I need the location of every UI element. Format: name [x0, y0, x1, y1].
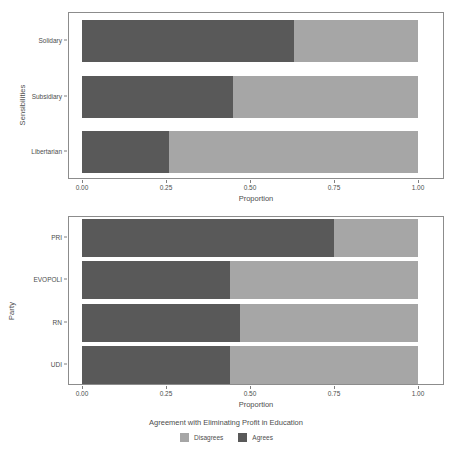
x-tick-label: 0.25: [160, 390, 173, 397]
y-tick-mark: [64, 237, 67, 238]
x-axis-title-top: Proportion: [68, 194, 444, 203]
legend: Agreement with Eliminating Profit in Edu…: [0, 414, 452, 456]
y-tick-label: Subsidiary: [32, 92, 62, 99]
stacked-bar-chart-figure: Sensibilities SolidarySubsidiaryLibertar…: [0, 0, 452, 456]
x-tick-mark: [418, 180, 419, 183]
bar-row: [69, 346, 443, 384]
bar-segment-agrees: [82, 76, 233, 118]
legend-swatch-disagrees: [179, 432, 190, 443]
x-tick-label: 0.00: [76, 390, 89, 397]
bar-segment-agrees: [82, 304, 240, 342]
legend-items: DisagreesAgrees: [0, 432, 452, 443]
y-tick-mark: [64, 95, 67, 96]
bar-track: [82, 76, 418, 118]
x-tick-mark: [82, 386, 83, 389]
x-tick-label: 0.75: [328, 184, 341, 191]
bar-segment-disagrees: [230, 261, 418, 299]
x-tick-mark: [166, 386, 167, 389]
bar-track: [82, 219, 418, 257]
bar-segment-agrees: [82, 131, 169, 173]
x-tick-mark: [250, 180, 251, 183]
bar-track: [82, 304, 418, 342]
y-tick-label: PRI: [51, 234, 62, 241]
legend-label: Agrees: [252, 434, 273, 441]
x-tick-label: 0.25: [160, 184, 173, 191]
y-tick-label: Libertarian: [31, 148, 62, 155]
bar-segment-agrees: [82, 20, 294, 62]
plot-area-bottom: [68, 216, 444, 385]
bar-segment-agrees: [82, 261, 230, 299]
bar-row: [69, 219, 443, 257]
bar-row: [69, 76, 443, 118]
legend-label: Disagrees: [194, 434, 223, 441]
bar-track: [82, 131, 418, 173]
x-tick-mark: [82, 180, 83, 183]
y-tick-mark: [64, 363, 67, 364]
bar-row: [69, 20, 443, 62]
bar-segment-disagrees: [230, 346, 418, 384]
bar-segment-agrees: [82, 346, 230, 384]
legend-item[interactable]: Agrees: [237, 432, 273, 443]
x-tick-mark: [334, 180, 335, 183]
y-tick-mark: [64, 151, 67, 152]
bar-segment-agrees: [82, 219, 334, 257]
bar-row: [69, 261, 443, 299]
legend-title: Agreement with Eliminating Profit in Edu…: [0, 418, 452, 427]
bar-segment-disagrees: [240, 304, 418, 342]
x-tick-mark: [418, 386, 419, 389]
bar-row: [69, 304, 443, 342]
x-tick-mark: [166, 180, 167, 183]
x-tick-label: 0.00: [76, 184, 89, 191]
plot-area-top: [68, 12, 444, 179]
y-tick-label: RN: [53, 318, 62, 325]
bar-segment-disagrees: [233, 76, 418, 118]
bar-track: [82, 346, 418, 384]
x-tick-mark: [250, 386, 251, 389]
legend-item[interactable]: Disagrees: [179, 432, 223, 443]
y-tick-label: Solidary: [39, 36, 62, 43]
bar-segment-disagrees: [169, 131, 418, 173]
x-tick-label: 1.00: [412, 184, 425, 191]
bar-track: [82, 20, 418, 62]
y-tick-label: UDI: [51, 360, 62, 367]
y-tick-labels-top: SolidarySubsidiaryLibertarian: [14, 2, 68, 208]
x-tick-label: 1.00: [412, 390, 425, 397]
bar-segment-disagrees: [334, 219, 418, 257]
panel-sensibilities: Sensibilities SolidarySubsidiaryLibertar…: [0, 2, 452, 208]
x-tick-label: 0.75: [328, 390, 341, 397]
x-axis-title-bottom: Proportion: [68, 400, 444, 409]
panel-party: Party PRIEVOPOLIRNUDI 0.000.250.500.751.…: [0, 208, 452, 414]
y-tick-mark: [64, 321, 67, 322]
bar-row: [69, 131, 443, 173]
legend-swatch-agrees: [237, 432, 248, 443]
y-tick-mark: [64, 39, 67, 40]
bar-track: [82, 261, 418, 299]
y-tick-mark: [64, 279, 67, 280]
y-tick-labels-bottom: PRIEVOPOLIRNUDI: [14, 208, 68, 414]
x-tick-label: 0.50: [244, 184, 257, 191]
y-tick-label: EVOPOLI: [33, 276, 62, 283]
bar-segment-disagrees: [294, 20, 418, 62]
x-tick-mark: [334, 386, 335, 389]
x-tick-label: 0.50: [244, 390, 257, 397]
